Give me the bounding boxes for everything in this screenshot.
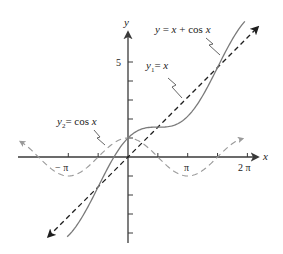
x-axis-label: x xyxy=(262,150,268,162)
y1-curve-label: y1= x xyxy=(145,59,168,74)
y2-leader-line xyxy=(94,130,105,145)
x-tick-label-pi: π xyxy=(184,162,189,173)
x-tick-label-2pi: 2 π xyxy=(238,162,251,173)
sum-curve-label: y = x + cos x xyxy=(154,23,211,35)
y-axis-label: y xyxy=(123,16,129,28)
sum-leader-line xyxy=(206,38,220,55)
identity-line xyxy=(48,27,258,237)
function-plot: y x 5 − π π 2 π y = x + cos x y1= x y2= … xyxy=(0,0,283,254)
y-tick-label-5: 5 xyxy=(116,57,121,68)
y1-leader-line xyxy=(168,78,182,98)
x-tick-label-neg-pi: − π xyxy=(55,162,68,173)
y2-curve-label: y2= cos x xyxy=(56,115,97,130)
axis-ticks xyxy=(68,62,247,233)
